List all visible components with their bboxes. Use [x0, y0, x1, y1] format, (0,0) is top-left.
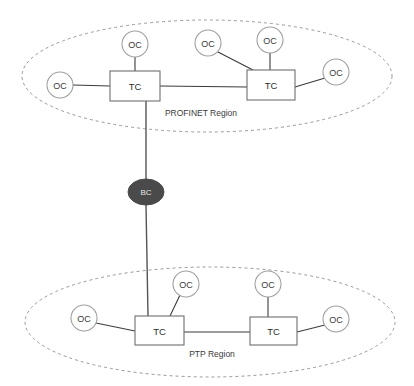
node-bc-boundary-clock[interactable]: BC [128, 179, 164, 205]
node-tc-ptp-right[interactable]: TC [250, 317, 297, 345]
node-oc-ptp-top-left[interactable]: OC [173, 271, 199, 297]
node-tc-profinet-left[interactable]: TC [110, 71, 160, 101]
node-label: OC [261, 280, 275, 290]
node-label: OC [53, 81, 67, 91]
link-oc-to-tc [295, 78, 325, 87]
node-tc-profinet-right[interactable]: TC [247, 70, 295, 100]
node-oc-profinet-top-left[interactable]: OC [122, 31, 148, 57]
node-label: TC [265, 80, 278, 91]
node-label: OC [77, 314, 91, 324]
node-oc-ptp-right[interactable]: OC [323, 306, 349, 332]
node-label: OC [201, 39, 215, 49]
node-tc-ptp-left[interactable]: TC [135, 316, 184, 345]
node-label: OC [263, 36, 277, 46]
link-oc-to-tc [170, 295, 180, 316]
node-oc-ptp-top-right[interactable]: OC [255, 271, 281, 297]
node-label: OC [179, 280, 193, 290]
node-oc-ptp-left[interactable]: OC [71, 305, 97, 331]
network-topology-diagram: TC TC OC OC OC OC OC BC [0, 0, 414, 386]
node-label: OC [329, 68, 343, 78]
link-oc-to-tc [96, 323, 135, 331]
node-label: OC [329, 315, 343, 325]
region-label-ptp: PTP Region [189, 349, 235, 359]
link-oc-to-tc [218, 52, 253, 70]
link-oc-to-tc [73, 85, 110, 86]
link-oc-to-tc [297, 325, 325, 332]
node-label: BC [140, 188, 151, 197]
node-label: TC [267, 326, 280, 337]
node-oc-profinet-left[interactable]: OC [47, 72, 73, 98]
node-oc-profinet-center[interactable]: OC [195, 30, 221, 56]
node-label: TC [153, 326, 166, 337]
region-label-profinet: PROFINET Region [165, 108, 237, 118]
node-oc-profinet-top-right[interactable]: OC [257, 27, 283, 53]
link-tc-to-tc [160, 86, 247, 87]
link-bc-to-tc [146, 205, 148, 316]
node-oc-profinet-right[interactable]: OC [323, 59, 349, 85]
node-label: OC [128, 40, 142, 50]
node-label: TC [129, 81, 142, 92]
